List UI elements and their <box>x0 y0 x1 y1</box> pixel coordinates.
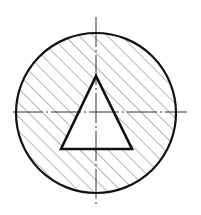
section-diagram <box>0 0 201 215</box>
